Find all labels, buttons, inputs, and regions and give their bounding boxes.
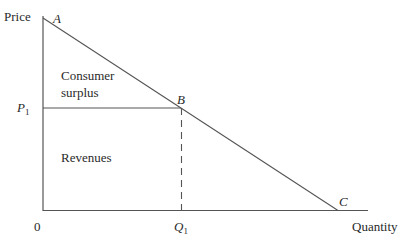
consumer-surplus-label-line1: Consumer bbox=[61, 69, 114, 83]
revenues-label: Revenues bbox=[61, 151, 112, 165]
point-a-label: A bbox=[53, 12, 61, 26]
origin-label: 0 bbox=[34, 220, 41, 234]
point-b-label: B bbox=[177, 93, 185, 107]
point-c-label: C bbox=[339, 195, 348, 209]
x-axis-label: Quantity bbox=[352, 220, 398, 234]
p1-subscript: 1 bbox=[25, 107, 30, 117]
q1-subscript: 1 bbox=[183, 226, 188, 236]
q1-letter: Q bbox=[174, 219, 183, 234]
p1-label: P1 bbox=[17, 101, 29, 119]
p1-letter: P bbox=[17, 100, 25, 115]
demand-curve bbox=[43, 18, 338, 211]
consumer-surplus-label-line2: surplus bbox=[61, 86, 99, 100]
y-axis-label: Price bbox=[4, 10, 31, 24]
q1-label: Q1 bbox=[174, 220, 188, 238]
